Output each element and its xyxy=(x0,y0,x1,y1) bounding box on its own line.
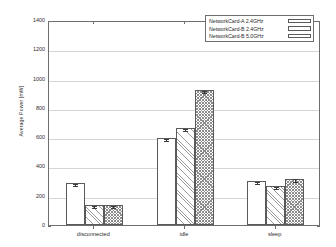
legend-item: NetworkCard-B 2.4GHz xyxy=(209,25,311,32)
x-axis-tick-mark xyxy=(275,226,276,229)
y-axis-tick-label: 800 xyxy=(5,106,45,111)
gridline xyxy=(49,110,319,111)
y-axis-tick-mark xyxy=(317,226,320,227)
legend-label: NetworkCard-B 5.0GHz xyxy=(209,33,264,39)
error-bar-cap xyxy=(202,91,207,92)
error-bar-cap xyxy=(164,139,169,140)
error-bar-cap xyxy=(293,182,298,183)
error-bar-cap xyxy=(111,208,116,209)
x-axis-tick-mark xyxy=(93,21,94,24)
legend-swatch-icon xyxy=(288,19,311,24)
x-axis-tick-mark xyxy=(93,226,94,229)
error-bar-cap xyxy=(274,189,279,190)
x-axis-tick-label: idle xyxy=(149,231,219,237)
legend: NetworkCard-A 2.4GHz NetworkCard-B 2.4GH… xyxy=(205,15,314,42)
error-bar-cap xyxy=(73,186,78,187)
y-axis-tick-label: 1000 xyxy=(5,77,45,82)
bar xyxy=(266,186,285,225)
error-bar-cap xyxy=(92,206,97,207)
plot-area xyxy=(48,21,320,226)
error-bar-cap xyxy=(255,182,260,183)
error-bar-cap xyxy=(202,93,207,94)
gridline xyxy=(49,81,319,82)
error-bar-cap xyxy=(274,187,279,188)
legend-item: NetworkCard-B 5.0GHz xyxy=(209,32,311,39)
y-axis-tick-mark xyxy=(48,226,51,227)
legend-label: NetworkCard-A 2.4GHz xyxy=(209,18,263,24)
legend-swatch-icon xyxy=(288,26,311,31)
y-axis-tick-label: 1200 xyxy=(5,47,45,52)
gridline xyxy=(49,51,319,52)
error-bar-cap xyxy=(164,141,169,142)
y-axis-tick-label: 600 xyxy=(5,135,45,140)
x-axis-tick-mark xyxy=(184,226,185,229)
x-axis-tick-label: disconnected xyxy=(58,231,128,237)
y-axis-tick-label: 200 xyxy=(5,194,45,199)
legend-swatch-icon xyxy=(288,34,311,39)
bar xyxy=(247,181,266,225)
y-axis-tick-label: 1400 xyxy=(5,18,45,23)
error-bar-cap xyxy=(255,184,260,185)
error-bar-cap xyxy=(92,208,97,209)
legend-item: NetworkCard-A 2.4GHz xyxy=(209,18,311,25)
bar xyxy=(285,179,304,225)
error-bar-cap xyxy=(183,129,188,130)
error-bar-cap xyxy=(293,179,298,180)
x-axis-tick-mark xyxy=(184,21,185,24)
error-bar-cap xyxy=(183,131,188,132)
x-axis-tick-label: sleep xyxy=(240,231,310,237)
bar-chart: Average Power [mW] 020040060080010001200… xyxy=(0,0,336,247)
bar xyxy=(195,90,214,225)
bar xyxy=(66,183,85,225)
y-axis-tick-label: 0 xyxy=(5,223,45,228)
bar xyxy=(157,138,176,225)
legend-label: NetworkCard-B 2.4GHz xyxy=(209,26,264,32)
error-bar-cap xyxy=(73,184,78,185)
y-axis-tick-label: 400 xyxy=(5,164,45,169)
error-bar-cap xyxy=(111,206,116,207)
bar xyxy=(176,128,195,225)
